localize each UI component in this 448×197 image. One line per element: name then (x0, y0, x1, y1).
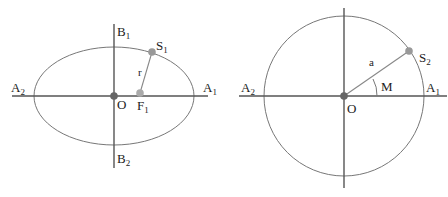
label-b1: B1 (117, 24, 130, 41)
label-a1: A1 (203, 80, 217, 97)
label-o-circle: O (347, 101, 356, 116)
label-s1: S1 (156, 38, 168, 55)
center-point-o (340, 92, 348, 100)
label-a: a (369, 56, 374, 68)
angle-arc-m (373, 79, 377, 96)
label-o-ellipse: O (117, 97, 126, 112)
label-r: r (138, 66, 142, 78)
label-b2: B2 (117, 151, 130, 168)
focus-point-f1 (136, 89, 144, 97)
label-f1: F1 (137, 98, 149, 115)
body-point-s1 (148, 48, 156, 56)
label-m: M (381, 79, 393, 94)
label-s2: S2 (419, 50, 431, 67)
diagram-canvas: B1 B2 A2 A1 S1 F1 O r A2 A1 S2 O a M (0, 0, 448, 197)
label-a1: A1 (426, 80, 440, 97)
label-a2: A2 (241, 80, 255, 97)
label-a2: A2 (11, 80, 25, 97)
circle-figure: A2 A1 S2 O a M (239, 8, 447, 188)
radius-vector-r (140, 52, 152, 93)
ellipse-figure: B1 B2 A2 A1 S1 F1 O r (11, 24, 217, 168)
body-point-s2 (405, 47, 413, 55)
